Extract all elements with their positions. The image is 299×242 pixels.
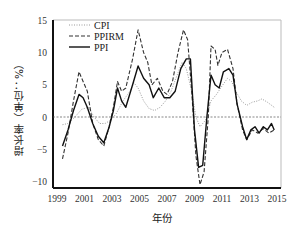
y-tick-label: 15 [38,16,48,26]
x-tick-label: 2001 [75,194,94,204]
legend-label-ppirm: PPIRM [94,31,124,42]
x-tick-label: 2007 [158,194,177,204]
series-lines [63,30,275,185]
y-tick-label: 5 [42,80,47,90]
y-tick-label: 10 [38,48,48,58]
x-tick-label: 2011 [213,194,232,204]
y-tick-label: 0 [42,113,47,123]
legend-label-ppi: PPI [94,42,108,53]
x-tick-label: 2009 [185,194,204,204]
legend-label-cpi: CPI [94,20,110,31]
legend: CPIPPIRMPPI [69,20,124,53]
line-chart: 151050−5−10 1999200120032005200720092011… [0,0,299,242]
y-tick-label: −5 [37,145,47,155]
x-tick-label: 1999 [48,194,67,204]
plot-frame [53,20,281,188]
y-tick-labels: 151050−5−10 [32,16,47,187]
x-tick-label: 2015 [268,194,287,204]
series-ppi-line [63,59,275,167]
x-tick-label: 2005 [130,194,149,204]
x-tick-labels: 199920012003200520072009201120132015 [48,194,287,204]
y-axis-label: 增长率（单位：%） [14,58,28,156]
y-tick-label: −10 [32,177,47,187]
x-tick-label: 2003 [103,194,122,204]
x-axis-label: 年份 [152,210,172,225]
series-ppirm-line [63,30,275,185]
x-tick-label: 2013 [240,194,259,204]
